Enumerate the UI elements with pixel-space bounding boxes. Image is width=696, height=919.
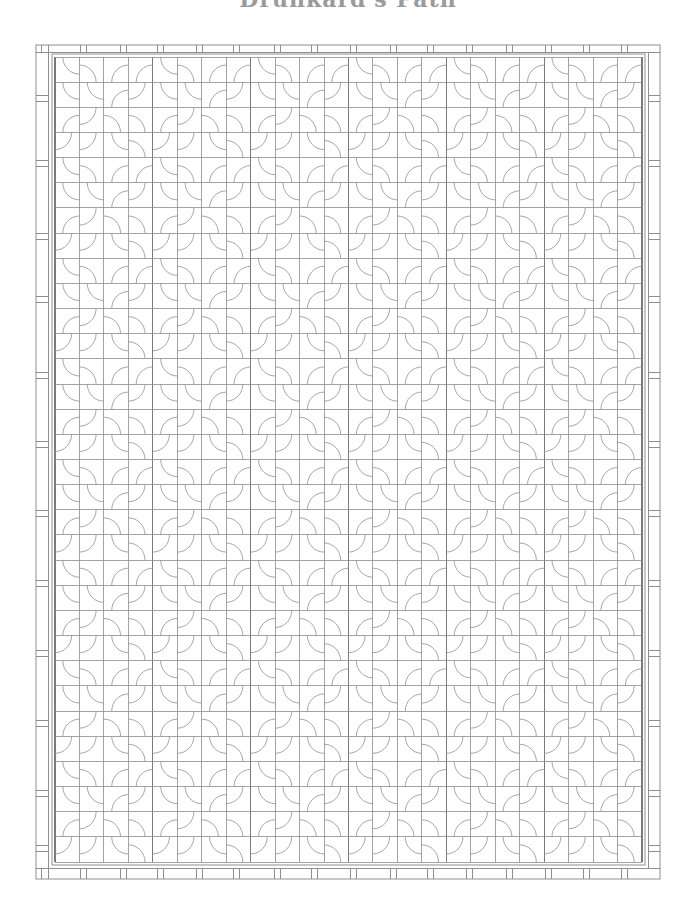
quarter-circle-arc (569, 132, 586, 149)
quarter-circle-arc (601, 434, 618, 451)
quarter-circle-arc (528, 669, 545, 686)
quarter-circle-arc (210, 233, 227, 250)
quarter-circle-arc (128, 384, 145, 401)
quarter-circle-arc (79, 837, 96, 854)
quarter-circle-arc (177, 166, 194, 183)
quarter-circle-arc (275, 636, 292, 653)
quarter-circle-arc (63, 661, 80, 678)
quarter-circle-arc (601, 468, 618, 485)
quarter-circle-arc (422, 644, 439, 661)
quarter-circle-arc (136, 669, 153, 686)
quarter-circle-arc (324, 317, 341, 334)
quarter-circle-arc (569, 535, 586, 552)
quarter-circle-arc (275, 334, 292, 351)
quarter-circle-arc (79, 132, 96, 149)
quarter-circle-arc (112, 769, 129, 786)
quarter-circle-arc (520, 317, 537, 334)
quarter-circle-arc (112, 593, 129, 610)
quarter-circle-arc (324, 417, 341, 434)
quarter-circle-arc (79, 334, 96, 351)
quarter-circle-arc (177, 669, 194, 686)
quarter-circle-arc (210, 694, 227, 711)
quarter-circle-arc (503, 694, 520, 711)
quarter-circle-arc (356, 158, 373, 175)
quarter-circle-arc (552, 183, 569, 200)
quarter-circle-arc (79, 107, 96, 124)
quarter-circle-arc (112, 468, 129, 485)
quarter-circle-arc (161, 560, 178, 577)
quarter-circle-arc (210, 367, 227, 384)
quarter-circle-arc (177, 367, 194, 384)
quarter-circle-arc (593, 719, 610, 736)
quarter-circle-arc (422, 719, 439, 736)
quarter-circle-arc (300, 216, 317, 233)
quarter-circle-arc (210, 837, 227, 854)
quarter-circle-arc (63, 618, 80, 635)
quarter-circle-arc (373, 233, 390, 250)
quarter-circle-arc (454, 585, 471, 602)
quarter-circle-arc (128, 283, 145, 300)
quarter-circle-arc (63, 460, 80, 477)
quarter-circle-arc (479, 686, 496, 703)
quarter-circle-arc (161, 384, 178, 401)
quarter-circle-arc (63, 820, 80, 837)
quarter-circle-arc (552, 417, 569, 434)
quarter-circle-arc (63, 585, 80, 602)
quarter-circle-arc (471, 334, 488, 351)
quarter-circle-arc (397, 618, 414, 635)
quarter-circle-arc (258, 258, 275, 275)
quarter-circle-arc (324, 183, 341, 200)
quarter-circle-arc (128, 485, 145, 502)
quarter-circle-arc (356, 820, 373, 837)
quarter-circle-arc (161, 57, 178, 74)
quarter-circle-arc (63, 384, 80, 401)
quarter-circle-arc (373, 65, 390, 82)
quarter-circle-arc (55, 233, 72, 250)
quarter-circle-arc (324, 543, 341, 560)
quarter-circle-arc (503, 837, 520, 854)
quarter-circle-arc (569, 107, 586, 124)
quarter-circle-arc (618, 241, 635, 258)
quarter-circle-arc (300, 317, 317, 334)
quarter-circle-arc (356, 359, 373, 376)
quarter-circle-arc (226, 686, 243, 703)
quarter-circle-arc (520, 543, 537, 560)
quarter-circle-arc (251, 233, 268, 250)
quarter-circle-arc (422, 115, 439, 132)
quarter-circle-arc (210, 468, 227, 485)
quarter-circle-arc (405, 132, 422, 149)
quarter-circle-arc (569, 736, 586, 753)
quarter-circle-arc (405, 837, 422, 854)
quarter-circle-arc (544, 535, 561, 552)
quarter-circle-arc (397, 115, 414, 132)
quarter-circle-arc (552, 115, 569, 132)
quarter-circle-arc (226, 618, 243, 635)
quarter-circle-arc (356, 384, 373, 401)
quarter-circle-arc (153, 233, 170, 250)
quarter-circle-arc (128, 82, 145, 99)
quarter-circle-arc (454, 417, 471, 434)
quarter-circle-arc (324, 719, 341, 736)
quarter-circle-arc (234, 367, 251, 384)
quarter-circle-arc (471, 669, 488, 686)
quarter-circle-arc (226, 787, 243, 804)
quarter-circle-arc (397, 518, 414, 535)
quarter-circle-arc (552, 82, 569, 99)
quarter-circle-arc (471, 837, 488, 854)
quarter-circle-arc (177, 233, 194, 250)
quarter-circle-arc (307, 90, 324, 107)
quarter-circle-arc (397, 317, 414, 334)
quarter-circle-arc (503, 795, 520, 812)
quarter-circle-arc (618, 442, 635, 459)
quarter-circle-arc (258, 518, 275, 535)
quarter-circle-arc (258, 618, 275, 635)
quarter-circle-arc (503, 535, 520, 552)
quarter-circle-arc (503, 392, 520, 409)
quarter-circle-arc (576, 283, 593, 300)
quarter-circle-arc (185, 485, 202, 502)
quarter-circle-arc (324, 518, 341, 535)
quarter-circle-arc (177, 309, 194, 326)
quarter-circle-arc (161, 82, 178, 99)
quarter-circle-arc (275, 367, 292, 384)
quarter-circle-arc (324, 241, 341, 258)
